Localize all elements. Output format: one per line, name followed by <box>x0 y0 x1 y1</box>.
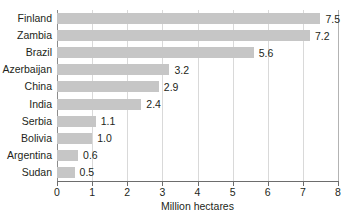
category-label: Bolivia <box>21 133 52 144</box>
bar <box>57 47 254 58</box>
bar-row: 0.5 <box>57 167 338 178</box>
bar-value-label: 2.9 <box>164 82 179 93</box>
bar <box>57 81 159 92</box>
bar <box>57 116 96 127</box>
x-tick-label: 3 <box>159 186 165 199</box>
x-tick-label: 4 <box>195 186 201 199</box>
bar-value-label: 7.2 <box>315 30 330 41</box>
category-label: Zambia <box>17 30 52 41</box>
bar-value-label: 1.0 <box>97 133 112 144</box>
category-axis-labels: FinlandZambiaBrazilAzerbaijanChinaIndiaS… <box>0 10 52 181</box>
plot-area: 7.57.25.63.22.92.41.11.00.60.5 <box>57 10 338 181</box>
bar-row: 2.9 <box>57 81 338 92</box>
category-label: India <box>29 99 52 110</box>
category-label: Azerbaijan <box>2 64 52 75</box>
x-tick-label: 1 <box>89 186 95 199</box>
bar-chart: FinlandZambiaBrazilAzerbaijanChinaIndiaS… <box>0 0 345 221</box>
category-label: China <box>25 81 52 92</box>
bar-row: 0.6 <box>57 150 338 161</box>
gridline-8 <box>338 10 339 181</box>
bar-row: 7.2 <box>57 30 338 41</box>
x-tick-label: 2 <box>124 186 130 199</box>
bar <box>57 64 169 75</box>
bar <box>57 13 320 24</box>
bar-row: 7.5 <box>57 13 338 24</box>
bar-row: 1.1 <box>57 116 338 127</box>
bar-row: 1.0 <box>57 133 338 144</box>
bar <box>57 167 75 178</box>
x-tick-label: 8 <box>335 186 341 199</box>
category-label: Sudan <box>22 167 52 178</box>
bar-value-label: 0.5 <box>80 167 95 178</box>
bar-series: 7.57.25.63.22.92.41.11.00.60.5 <box>57 10 338 181</box>
x-axis-tick-labels: 012345678 <box>57 186 338 200</box>
category-label: Brazil <box>26 47 52 58</box>
bar <box>57 30 310 41</box>
bar-row: 5.6 <box>57 47 338 58</box>
x-tick-label: 0 <box>54 186 60 199</box>
bar-row: 3.2 <box>57 64 338 75</box>
category-label: Argentina <box>7 150 52 161</box>
bar-value-label: 7.5 <box>325 13 340 24</box>
bar-row: 2.4 <box>57 99 338 110</box>
bar <box>57 133 92 144</box>
x-tick-label: 5 <box>230 186 236 199</box>
x-tick-label: 6 <box>265 186 271 199</box>
bar-value-label: 0.6 <box>83 150 98 161</box>
bar <box>57 150 78 161</box>
bar-value-label: 2.4 <box>146 99 161 110</box>
x-axis-title: Million hectares <box>57 200 338 212</box>
bar-value-label: 5.6 <box>259 48 274 59</box>
bar-value-label: 3.2 <box>174 65 189 76</box>
bar-value-label: 1.1 <box>101 116 116 127</box>
category-label: Finland <box>18 13 52 24</box>
category-label: Serbia <box>22 116 52 127</box>
x-tick-label: 7 <box>300 186 306 199</box>
bar <box>57 99 141 110</box>
